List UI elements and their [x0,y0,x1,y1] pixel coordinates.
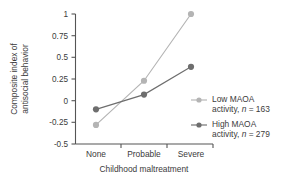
y-tick-label: -0.25 [49,118,68,127]
y-tick-label: 0.75 [52,32,68,41]
legend-label-prefix: activity, [212,104,242,114]
x-category-label: Probable [127,149,161,159]
legend-label-line1: Low MAOA [212,94,255,104]
series-layer [93,11,194,128]
legend-label-prefix: activity, [212,129,242,139]
x-axis-title: Childhood maltreatment [100,164,190,174]
data-point[interactable] [188,11,194,17]
legend-item-low-maoa[interactable]: Low MAOA activity, n = 163 [191,94,270,114]
legend-label-suffix: = 163 [246,104,270,114]
y-axis-ticks: 1 0.75 0.5 0.25 0 -0.25 -0.5 [49,10,75,149]
series-line [96,14,191,125]
y-tick-label: 0 [63,97,68,106]
legend-label-line2: activity, n = 279 [212,129,270,139]
y-tick-label: -0.5 [54,140,69,149]
data-point[interactable] [93,106,99,112]
series-high-maoa [93,64,194,113]
legend-label-line1: High MAOA [212,119,257,129]
y-tick-label: 0.25 [52,75,68,84]
legend-label-suffix: = 279 [246,129,270,139]
series-low-maoa [93,11,194,128]
x-category-label: None [86,149,106,159]
data-point[interactable] [93,122,99,128]
data-point[interactable] [188,64,194,70]
antisocial-behavior-line-chart: Composite index of antisocial behavior 1… [0,0,287,176]
x-axis-ticks [121,144,213,148]
y-axis-title-line2: antisocial behavior [20,44,30,114]
chart-figure: Composite index of antisocial behavior 1… [0,0,287,176]
legend-point-marker [196,122,201,127]
legend-item-high-maoa[interactable]: High MAOA activity, n = 279 [191,119,270,139]
data-point[interactable] [141,78,147,84]
chart-legend: Low MAOA activity, n = 163 High MAOA act… [191,94,270,139]
legend-point-marker [196,97,201,102]
y-axis-title: Composite index of antisocial behavior [9,42,30,114]
legend-label-line2: activity, n = 163 [212,104,270,114]
x-axis-category-labels: None Probable Severe [86,149,205,159]
data-point[interactable] [141,92,147,98]
y-tick-label: 0.5 [57,53,69,62]
y-axis-title-line1: Composite index of [9,42,19,114]
x-category-label: Severe [178,149,205,159]
y-tick-label: 1 [63,10,68,19]
series-line [96,67,191,109]
